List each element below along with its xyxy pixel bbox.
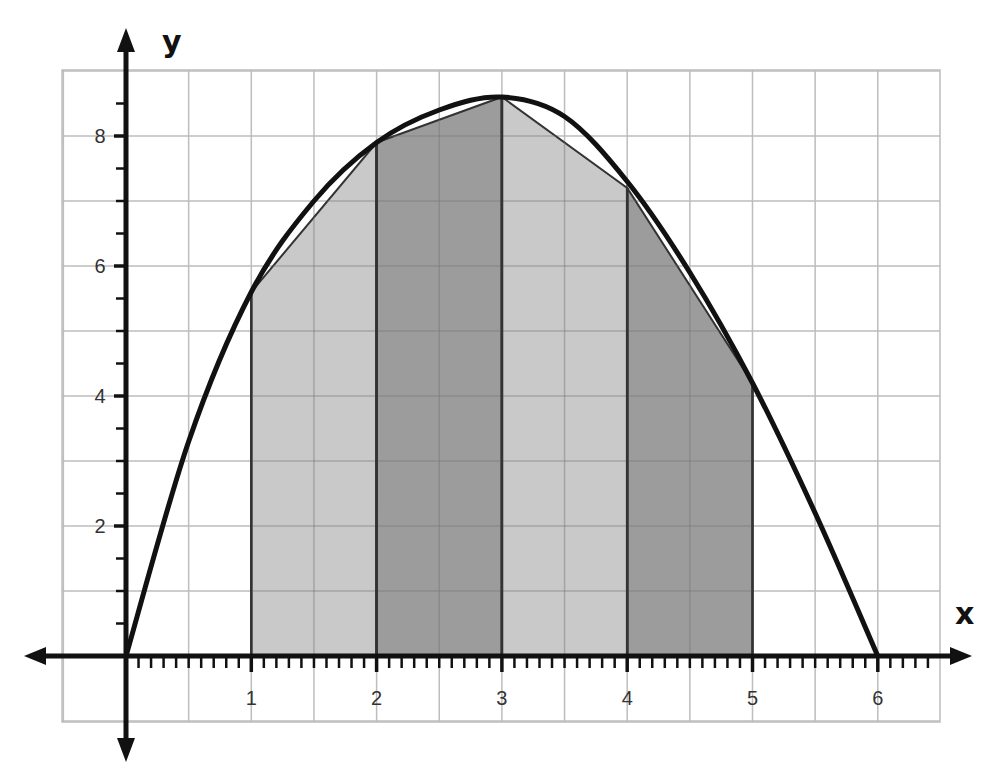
y-tick-label: 4 xyxy=(94,385,105,407)
y-tick-label: 6 xyxy=(94,255,105,277)
x-tick-label: 3 xyxy=(496,687,507,709)
x-axis-left-arrow-icon xyxy=(24,647,46,665)
y-tick-label: 2 xyxy=(94,515,105,537)
y-axis-up-arrow-icon xyxy=(117,28,135,52)
x-tick-label: 5 xyxy=(747,687,758,709)
x-tick-label: 2 xyxy=(371,687,382,709)
x-axis-label: x xyxy=(955,596,974,631)
x-tick-label: 1 xyxy=(246,687,257,709)
y-axis-down-arrow-icon xyxy=(117,738,135,762)
x-axis-right-arrow-icon xyxy=(950,647,972,665)
x-tick-label: 6 xyxy=(872,687,883,709)
y-axis-label: y xyxy=(162,24,182,59)
y-tick-label: 8 xyxy=(94,125,105,147)
trapezoid-area-chart: 1234562468 x y xyxy=(0,0,1006,780)
x-tick-label: 4 xyxy=(622,687,633,709)
